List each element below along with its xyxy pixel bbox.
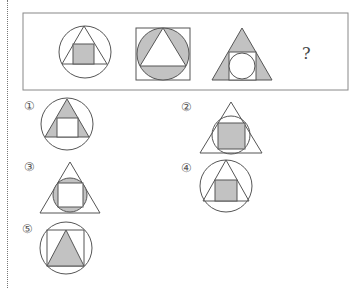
option-4-label[interactable]: ④ <box>181 162 192 174</box>
option-2-figure <box>200 102 262 154</box>
option-1-label[interactable]: ① <box>24 100 35 112</box>
sequence-figure-2 <box>136 28 190 80</box>
option-2-label[interactable]: ② <box>181 101 192 113</box>
option-5-label[interactable]: ⑤ <box>22 223 33 235</box>
sequence-figure-1 <box>59 26 111 78</box>
option-5-figure <box>40 222 92 274</box>
option-4-figure <box>200 160 252 212</box>
missing-figure-marker: ? <box>302 44 311 63</box>
option-1-figure <box>41 98 93 150</box>
option-3-label[interactable]: ③ <box>24 161 35 173</box>
sequence-figure-3 <box>212 28 272 80</box>
option-3-figure <box>40 162 100 213</box>
